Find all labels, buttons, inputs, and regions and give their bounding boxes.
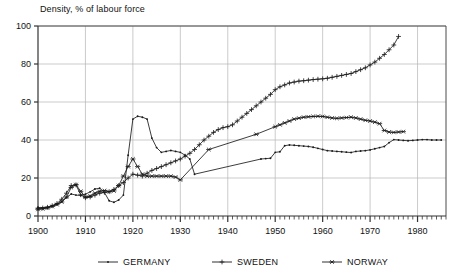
- data-point: [40, 206, 45, 211]
- data-point: [221, 125, 226, 130]
- data-point: [330, 116, 335, 120]
- data-point: [334, 117, 339, 121]
- data-point: [75, 194, 77, 196]
- data-point: [386, 130, 391, 134]
- data-point: [353, 116, 358, 120]
- x-axis-label: 1980: [408, 226, 428, 236]
- data-point: [301, 115, 306, 119]
- data-point: [431, 139, 433, 141]
- data-point: [175, 150, 177, 152]
- data-point: [312, 146, 314, 148]
- data-point: [274, 151, 276, 153]
- data-point: [383, 146, 385, 148]
- y-axis-label: 60: [21, 97, 31, 107]
- data-point: [317, 147, 319, 149]
- data-point: [107, 261, 109, 263]
- y-axis-label: 40: [21, 135, 31, 145]
- data-point: [179, 151, 181, 153]
- x-axis-label: 1970: [360, 226, 380, 236]
- data-point: [339, 73, 344, 78]
- data-point: [288, 144, 290, 146]
- data-point: [306, 115, 311, 119]
- data-point: [260, 158, 262, 160]
- x-axis-label: 1900: [28, 226, 48, 236]
- data-point: [382, 129, 387, 133]
- data-point: [298, 145, 300, 147]
- chart-plot-area: 0204060801001900191019201930194019501960…: [0, 0, 457, 280]
- data-point: [363, 65, 368, 70]
- data-point: [137, 115, 139, 117]
- y-axis-label: 100: [16, 21, 31, 31]
- data-point: [159, 164, 164, 169]
- data-point: [329, 260, 334, 264]
- data-point: [178, 157, 183, 162]
- data-point: [99, 187, 101, 189]
- data-point: [334, 74, 339, 79]
- series-line: [38, 36, 399, 208]
- data-point: [156, 147, 158, 149]
- data-point: [345, 151, 347, 153]
- data-point: [220, 260, 225, 265]
- data-point: [216, 127, 221, 132]
- data-point: [391, 131, 396, 135]
- data-point: [303, 145, 305, 147]
- data-point: [127, 154, 129, 156]
- data-point: [306, 78, 311, 83]
- data-point: [278, 84, 283, 89]
- data-point: [349, 71, 354, 76]
- data-point: [189, 158, 191, 160]
- data-point: [163, 174, 168, 178]
- data-point: [287, 119, 292, 123]
- data-point: [349, 115, 354, 119]
- data-point: [396, 130, 401, 134]
- legend-label-norway: NORWAY: [347, 257, 388, 267]
- x-axis-label: 1920: [123, 226, 143, 236]
- data-point: [284, 145, 286, 147]
- data-point: [301, 78, 306, 83]
- data-point: [113, 201, 115, 203]
- x-axis-label: 1910: [75, 226, 95, 236]
- data-point: [254, 132, 259, 136]
- data-point: [325, 76, 330, 81]
- data-point: [282, 83, 287, 88]
- data-point: [325, 115, 330, 119]
- data-point: [330, 75, 335, 80]
- data-point: [393, 139, 395, 141]
- chart-legend: GERMANYSWEDENNORWAY: [98, 257, 388, 267]
- data-point: [322, 149, 324, 151]
- data-point: [344, 116, 349, 120]
- data-point: [83, 195, 88, 200]
- data-point: [377, 122, 382, 126]
- data-point: [149, 168, 154, 173]
- data-point: [164, 162, 169, 167]
- data-point: [84, 193, 86, 195]
- data-point: [70, 193, 72, 195]
- data-point: [358, 117, 363, 121]
- data-point: [421, 139, 423, 141]
- data-point: [401, 130, 406, 134]
- data-point: [336, 150, 338, 152]
- data-point: [417, 139, 419, 141]
- data-point: [320, 76, 325, 81]
- data-point: [402, 139, 404, 141]
- data-point: [132, 118, 134, 120]
- data-point: [355, 150, 357, 152]
- data-point: [282, 121, 287, 125]
- data-point: [168, 174, 173, 178]
- data-point: [135, 173, 140, 178]
- data-point: [315, 114, 320, 118]
- data-point: [307, 146, 309, 148]
- data-point: [265, 158, 267, 160]
- data-point: [360, 150, 362, 152]
- data-point: [160, 151, 162, 153]
- data-point: [279, 151, 281, 153]
- data-point: [141, 116, 143, 118]
- data-point: [379, 147, 381, 149]
- data-point: [108, 200, 110, 202]
- y-axis-label: 20: [21, 173, 31, 183]
- data-point: [368, 63, 373, 68]
- data-point: [165, 150, 167, 152]
- data-point: [440, 139, 442, 141]
- x-axis-label: 1960: [313, 226, 333, 236]
- chart-figure: Density, % of labour force 0204060801001…: [0, 0, 457, 280]
